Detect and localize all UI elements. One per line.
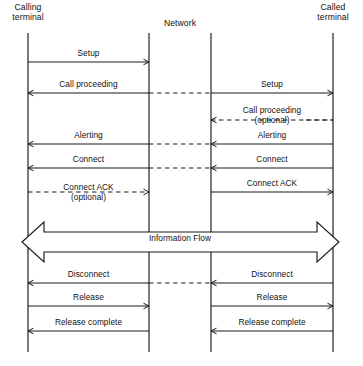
message-label-connect-ack-right: Connect ACK (247, 179, 297, 189)
information-flow-label: Information Flow (149, 234, 211, 244)
message-label-connect-right: Connect (256, 155, 287, 165)
message-label-call-proceeding-left: Call proceeding (59, 80, 117, 90)
message-label-disconnect-left: Disconnect (68, 270, 110, 280)
message-label-setup-left: Setup (78, 49, 100, 59)
message-label-connect-left: Connect (73, 155, 104, 165)
message-label-alerting-left: Alerting (74, 131, 103, 141)
message-label-setup-right: Setup (261, 80, 283, 90)
message-label-release-complete-right: Release complete (238, 318, 305, 328)
sequence-diagram: Calling terminal Network Called terminal… (0, 0, 363, 366)
message-label-release-left: Release (73, 293, 104, 303)
lifeline-header-network: Network (164, 18, 196, 28)
message-label-call-proceeding-right: Call proceeding (optional) (243, 106, 301, 126)
lifeline-header-called-terminal: Called terminal (317, 2, 348, 23)
lifeline-header-calling-terminal: Calling terminal (12, 2, 43, 23)
message-label-release-complete-left: Release complete (55, 318, 122, 328)
message-label-connect-ack-left: Connect ACK (optional) (63, 183, 113, 203)
message-label-disconnect-right: Disconnect (251, 270, 293, 280)
message-label-alerting-right: Alerting (258, 131, 287, 141)
diagram-canvas (0, 0, 363, 366)
message-label-release-right: Release (257, 293, 288, 303)
